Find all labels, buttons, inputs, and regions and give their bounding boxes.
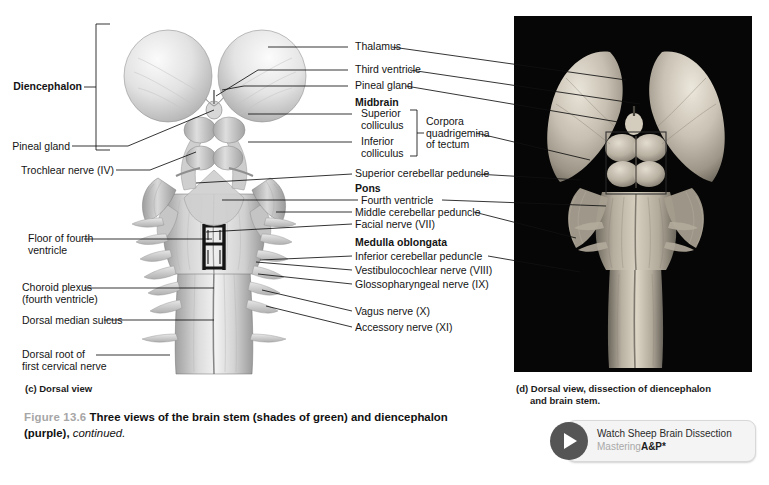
label-third-ventricle: Third ventricle: [355, 64, 421, 76]
label-choroid-plexus: Choroid plexus (fourth ventricle): [22, 282, 98, 305]
label-fourth-ventricle: Fourth ventricle: [361, 195, 433, 207]
label-pineal-gland-right: Pineal gland: [355, 80, 413, 92]
label-pons: Pons: [355, 183, 381, 195]
panel-c-caption: (c) Dorsal view: [25, 383, 92, 394]
figure-13-6: Diencephalon Pineal gland Trochlear nerv…: [0, 0, 769, 485]
play-button-circle[interactable]: [550, 422, 588, 460]
mastering-brand: MasteringA&P*: [597, 441, 666, 452]
panel-d-caption-line1: (d) Dorsal view, dissection of diencepha…: [516, 383, 711, 394]
figure-continued: continued.: [73, 427, 126, 439]
label-diencephalon: Diencephalon: [0, 81, 82, 93]
figure-number: Figure 13.6: [24, 411, 86, 423]
label-superior-cerebellar-peduncle: Superior cerebellar peduncle: [355, 168, 489, 180]
corpora-quadrigemina-bracket: [410, 110, 417, 156]
label-floor-of-fourth-ventricle: Floor of fourth ventricle: [28, 233, 93, 256]
label-corpora-quadrigemina: Corpora quadrigemina of tectum: [426, 116, 490, 151]
label-inferior-colliculus: Inferior colliculus: [361, 136, 404, 159]
dissection-photo-content: [514, 16, 752, 372]
label-pineal-gland-left: Pineal gland: [0, 141, 70, 153]
mastering-brand-dark: A&P*: [641, 441, 666, 452]
label-vagus-nerve: Vagus nerve (X): [355, 306, 430, 318]
label-middle-cerebellar-peduncle: Middle cerebellar peduncle: [355, 207, 481, 219]
figure-caption: Figure 13.6 Three views of the brain ste…: [24, 410, 494, 441]
video-title: Watch Sheep Brain Dissection: [597, 428, 732, 439]
label-thalamus: Thalamus: [355, 41, 401, 53]
label-superior-colliculus: Superior colliculus: [361, 108, 404, 131]
label-dorsal-root-first-cervical-nerve: Dorsal root of first cervical nerve: [22, 349, 107, 372]
panel-d-caption: (d) Dorsal view, dissection of diencepha…: [516, 383, 756, 407]
label-accessory-nerve: Accessory nerve (XI): [355, 322, 452, 334]
panel-d-caption-line2: and brain stem.: [516, 395, 756, 407]
mastering-brand-gray: Mastering: [597, 441, 641, 452]
brain-stem-dorsal-illustration: [96, 18, 346, 378]
label-trochlear-nerve: Trochlear nerve (IV): [0, 165, 114, 177]
play-icon: [564, 433, 577, 449]
brain-stem-dissection-photograph: [514, 16, 752, 372]
label-vestibulocochlear-nerve: Vestibulocochlear nerve (VIII): [355, 265, 492, 277]
brain-stem-drawing: [96, 18, 346, 378]
label-medulla-oblongata: Medulla oblongata: [355, 237, 447, 249]
label-facial-nerve: Facial nerve (VII): [355, 219, 435, 231]
label-glossopharyngeal-nerve: Glossopharyngeal nerve (IX): [355, 279, 489, 291]
watch-video-button[interactable]: Watch Sheep Brain Dissection MasteringA&…: [566, 420, 756, 462]
label-inferior-cerebellar-peduncle: Inferior cerebellar peduncle: [355, 251, 482, 263]
label-dorsal-median-sulcus: Dorsal median sulcus: [22, 315, 122, 327]
